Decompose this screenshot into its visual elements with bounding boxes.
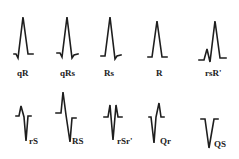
label-RS: RS (72, 137, 84, 146)
waveform-RS (56, 92, 76, 142)
label-R: R (156, 69, 163, 78)
label-QS: QS (214, 140, 226, 149)
waveform-qRs (57, 17, 78, 58)
waveform-Rs (101, 17, 121, 59)
label-rS: rS (29, 137, 38, 146)
label-Rs: Rs (104, 69, 114, 78)
label-qR: qR (17, 69, 29, 78)
waveform-qR (14, 17, 33, 58)
waveform-R (148, 21, 167, 57)
label-rsR-prime: rsR' (205, 69, 222, 78)
label-qRs: qRs (60, 69, 75, 78)
waveform-rSr-prime (104, 105, 122, 140)
qrs-morphology-diagram: qR qRs Rs R rsR' rS RS rSr' Qr QS (0, 0, 239, 159)
label-Qr: Qr (160, 137, 171, 146)
label-rSr-prime: rSr' (117, 137, 133, 146)
waveform-rsR-prime (199, 21, 226, 62)
